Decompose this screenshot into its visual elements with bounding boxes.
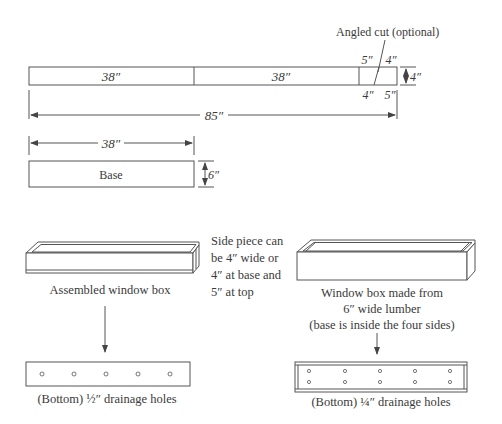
end-bottom-left-label: 4″ (363, 88, 375, 102)
bottom-panel-quarter-inch-holes: (Bottom) ¼″ drainage holes (295, 362, 467, 409)
base-width-label: 38″ (101, 136, 121, 151)
drainage-hole (104, 372, 108, 376)
lumber-strip (29, 67, 397, 85)
bottom-caption-left: (Bottom) ½″ drainage holes (37, 392, 176, 406)
base-piece: 38″ Base 6″ (29, 136, 220, 187)
svg-text:Side piece can: Side piece can (211, 234, 284, 248)
wide-box-caption-line-3: (base is inside the four sides) (309, 318, 454, 332)
end-bottom-right-label: 5″ (385, 88, 397, 102)
bottom-caption-right: (Bottom) ¼″ drainage holes (311, 395, 450, 409)
window-box-diagram: 38″ 38″ Angled cut (optional) 5″ 4″ 4″ 5… (0, 0, 502, 424)
drainage-hole (72, 372, 76, 376)
drainage-hole (40, 372, 44, 376)
drainage-hole (136, 372, 140, 376)
wide-box-caption-line-1: Window box made from (321, 286, 443, 300)
angled-cut-callout: Angled cut (optional) (336, 25, 439, 39)
cut-strip: 38″ 38″ Angled cut (optional) 5″ 4″ 4″ 5… (29, 25, 439, 123)
total-length-label: 85″ (205, 108, 224, 123)
wide-window-box: Window box made from 6″ wide lumber (bas… (297, 240, 475, 332)
drainage-hole (168, 372, 172, 376)
segment-2-label: 38″ (271, 69, 291, 84)
side-piece-note: Side piece can be 4″ wide or 4″ at base … (211, 234, 284, 299)
end-top-left-label: 5″ (362, 53, 374, 67)
svg-text:5″ at top: 5″ at top (211, 285, 254, 299)
assembled-box-caption: Assembled window box (50, 283, 172, 297)
bottom-panel-half-inch-holes: (Bottom) ½″ drainage holes (26, 362, 190, 406)
segment-1-label: 38″ (101, 69, 121, 84)
base-height-label: 6″ (208, 168, 220, 182)
wide-box-caption-line-2: 6″ wide lumber (343, 302, 421, 316)
svg-text:be 4″ wide or: be 4″ wide or (211, 251, 279, 265)
end-top-right-label: 4″ (386, 53, 398, 67)
base-label: Base (99, 168, 122, 182)
assembled-window-box: Assembled window box (26, 242, 199, 297)
svg-text:4″ at base and: 4″ at base and (211, 268, 282, 282)
strip-height-label: 4″ (410, 70, 422, 84)
